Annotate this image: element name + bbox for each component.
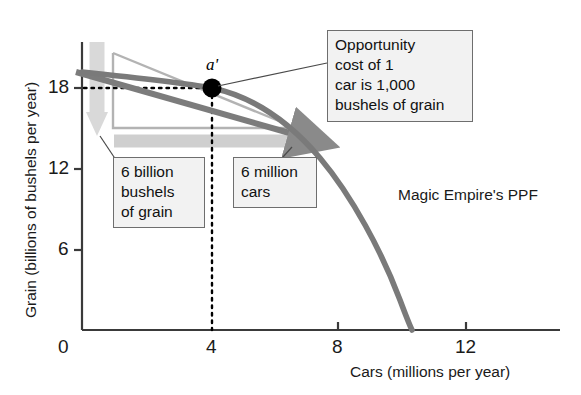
callout-cars-line-2: cars [241,182,309,202]
x-tick-label-0: 0 [58,336,69,358]
ppf-figure: a' 18 12 6 0 4 8 12 Grain (billions of b… [0,0,581,395]
y-tick-label-6: 6 [58,238,69,260]
callout-cars: 6 million cars [233,157,317,208]
callout-cars-line-1: 6 million [241,162,309,182]
x-tick-label-4: 4 [206,336,217,358]
y-tick-label-12: 12 [48,157,69,179]
callout-grain-line-2: bushels [121,182,197,202]
point-a-prime-marker [203,79,222,98]
leader-line-opportunity [218,63,327,86]
x-tick-label-12: 12 [455,336,476,358]
callout-grain-line-1: 6 billion [121,162,197,182]
callout-grain: 6 billion bushels of grain [113,157,205,228]
callout-opportunity-line-1: Opportunity [335,35,465,55]
callout-opportunity-cost: Opportunity cost of 1 car is 1,000 bushe… [327,30,473,122]
callout-opportunity-line-4: bushels of grain [335,95,465,115]
ppf-curve-label: Magic Empire's PPF [398,186,538,204]
x-axis-title: Cars (millions per year) [350,363,510,381]
point-a-prime-label: a' [206,55,218,75]
y-axis-ticks [74,88,82,250]
y-axis-title: Grain (billions of bushels per year) [22,82,40,318]
x-tick-label-8: 8 [332,336,343,358]
callout-opportunity-line-2: cost of 1 [335,55,465,75]
x-axis-ticks [338,322,466,330]
callout-opportunity-line-3: car is 1,000 [335,75,465,95]
callout-grain-line-3: of grain [121,202,197,222]
rise-arrow-down [86,42,108,136]
y-tick-label-18: 18 [48,76,69,98]
